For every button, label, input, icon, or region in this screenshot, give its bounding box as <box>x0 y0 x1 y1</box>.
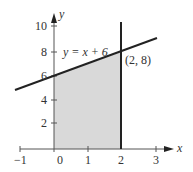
y-tick-label: 6 <box>41 69 47 83</box>
chart: −1 0 1 2 3 2 4 6 8 10 x y y = x + 6 (2, … <box>0 0 193 172</box>
y-tick-label: 8 <box>41 45 47 59</box>
x-axis-label: x <box>176 141 183 155</box>
x-tick-label: 0 <box>57 153 63 167</box>
x-tick-label: 2 <box>118 153 124 167</box>
x-tick-label: 3 <box>153 153 159 167</box>
equation-label: y = x + 6 <box>62 45 108 59</box>
y-tick-label: 2 <box>41 116 47 130</box>
x-axis-arrow-icon <box>164 146 174 152</box>
y-tick-label: 4 <box>41 93 47 107</box>
y-axis-arrow-icon <box>51 13 57 23</box>
y-tick-label: 10 <box>35 19 47 33</box>
shaded-region <box>54 52 121 149</box>
point-label: (2, 8) <box>125 53 151 67</box>
y-axis-label: y <box>58 7 65 21</box>
x-tick-label: 1 <box>85 153 91 167</box>
x-tick-label: −1 <box>14 153 27 167</box>
